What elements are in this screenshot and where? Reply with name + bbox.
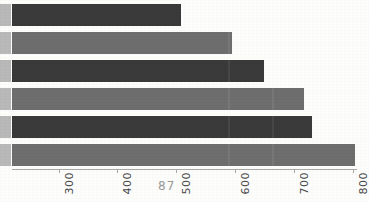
x-axis-tick-label: 800 (358, 172, 369, 202)
bar-2 (12, 32, 232, 54)
bar-6 (12, 144, 355, 166)
x-axis-tick-label: 600 (240, 172, 251, 202)
x-axis-tick-mark (176, 169, 177, 173)
x-axis-tick-label: 700 (299, 172, 310, 202)
x-axis-tick-mark (235, 169, 236, 173)
x-axis-tick-label: 400 (122, 172, 133, 202)
bar-chart-plot-area (0, 0, 369, 170)
chart-page: 300400500600700800 87 (0, 0, 369, 202)
bar-3 (12, 60, 264, 82)
x-axis-tick-label: 500 (181, 172, 192, 202)
x-axis-tick-mark (117, 169, 118, 173)
bar-1 (12, 4, 181, 26)
x-axis-tick-mark (59, 169, 60, 173)
bar-4 (12, 88, 304, 110)
page-number: 87 (158, 180, 175, 192)
x-axis-tick-label: 300 (64, 172, 75, 202)
x-axis-tick-mark (353, 169, 354, 173)
x-axis-line (12, 169, 357, 170)
x-axis-tick-mark (294, 169, 295, 173)
bar-5 (12, 116, 312, 138)
